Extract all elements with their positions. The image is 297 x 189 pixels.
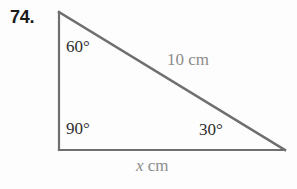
base-length-unit: cm: [144, 156, 169, 175]
base-length-label: x cm: [136, 157, 169, 174]
base-length-variable: x: [136, 156, 144, 175]
bottom-left-angle-label: 90°: [66, 120, 90, 137]
geometry-figure: 74. 60° 90° 30° 10 cm x cm: [0, 0, 297, 189]
triangle-hypotenuse: [59, 12, 285, 150]
bottom-right-angle-label: 30°: [199, 121, 223, 138]
top-left-angle-label: 60°: [66, 38, 90, 55]
hypotenuse-length-label: 10 cm: [167, 51, 209, 68]
